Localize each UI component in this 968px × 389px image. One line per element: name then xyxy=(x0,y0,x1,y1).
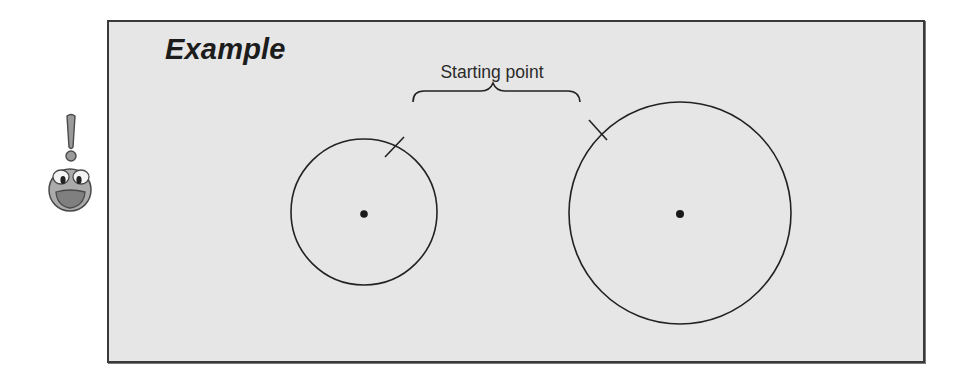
small-circle-start-tick xyxy=(385,137,404,157)
large-circle-center-dot xyxy=(676,210,684,218)
curly-brace xyxy=(413,83,580,102)
small-circle xyxy=(291,137,437,285)
diagram-drawing xyxy=(0,0,968,389)
large-circle-start-tick xyxy=(589,120,607,140)
diagram-stage: Example Starting point xyxy=(0,0,968,389)
large-circle xyxy=(569,102,791,324)
small-circle-center-dot xyxy=(360,210,368,218)
